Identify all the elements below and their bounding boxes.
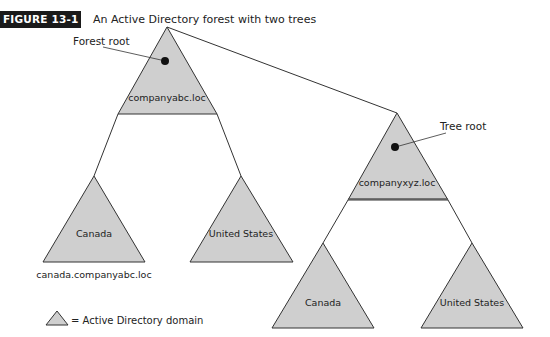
domain-triangle-us-abc <box>190 176 293 262</box>
domain-label-canada-abc: Canada <box>76 228 112 239</box>
legend: = Active Directory domain <box>46 311 203 326</box>
domain-label-companyabc: companyabc.loc <box>128 92 206 103</box>
tree-2-left-branch <box>323 200 348 243</box>
domain-label-companyxyz: companyxyz.loc <box>359 177 436 188</box>
domain-triangle-canada-abc <box>43 176 145 262</box>
domain-label-us-abc: United States <box>209 228 273 239</box>
tree-1-right-branch <box>217 114 241 176</box>
fqdn-label-canada-abc: canada.companyabc.loc <box>36 269 151 280</box>
tree-1-left-branch <box>94 114 118 176</box>
forest-diagram: Forest root companyabc.loc Canada canada… <box>0 0 550 337</box>
tree-root-label: Tree root <box>439 120 486 132</box>
tree-2-right-branch <box>448 200 472 243</box>
domain-label-us-xyz: United States <box>440 297 504 308</box>
tree-root-dot <box>391 143 399 151</box>
forest-root-label: Forest root <box>73 35 130 47</box>
tree-1: Forest root companyabc.loc Canada canada… <box>36 27 293 280</box>
forest-root-dot <box>161 57 169 65</box>
legend-text: = Active Directory domain <box>71 315 203 326</box>
tree-2: Tree root companyxyz.loc Canada United S… <box>272 113 523 328</box>
domain-legend-icon <box>46 311 68 325</box>
domain-label-canada-xyz: Canada <box>305 297 341 308</box>
domain-triangle-us-xyz <box>421 243 523 328</box>
